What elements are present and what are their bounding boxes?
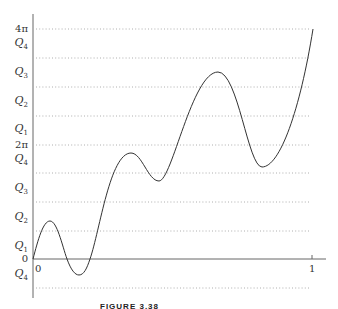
y-tick-label-q3: Q3 <box>15 67 29 81</box>
chart-plot <box>0 0 338 309</box>
figure-caption: FIGURE 3.38 <box>100 302 159 309</box>
data-curve <box>33 29 313 275</box>
y-tick-label-2pi: 2π <box>15 140 28 150</box>
x-tick-label-1: 1 <box>309 264 315 274</box>
y-tick-label-4pi: 4π <box>15 24 28 34</box>
gridlines <box>36 29 311 288</box>
y-tick-label-q3: Q3 <box>15 183 29 197</box>
y-tick-label-0: 0 <box>22 254 28 264</box>
y-tick-label-q4: Q4 <box>15 154 29 168</box>
y-tick-label-q2: Q2 <box>15 96 29 110</box>
y-tick-label-q4: Q4 <box>15 38 29 52</box>
y-tick-label-q2: Q2 <box>15 212 29 226</box>
y-tick-label-q4: Q4 <box>15 269 29 283</box>
y-tick-label-q1: Q1 <box>15 124 29 138</box>
x-tick-label-0: 0 <box>35 264 41 274</box>
